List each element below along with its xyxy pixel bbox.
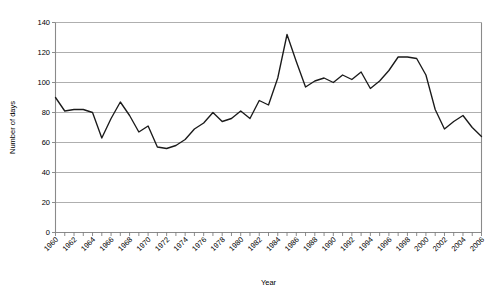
xtick-label-1964: 1964 [79,235,97,253]
ytick-label-120: 120 [37,48,50,57]
ytick-label-20: 20 [42,198,50,207]
xtick-label-1986: 1986 [283,235,301,253]
ytick-label-140: 140 [37,18,50,27]
xtick-label-2002: 2002 [431,235,449,253]
xtick-label-1998: 1998 [394,235,412,253]
xtick-label-1972: 1972 [153,235,171,253]
xtick-label-1980: 1980 [227,235,245,253]
x-axis-title: Year [261,278,277,287]
xtick-label-1990: 1990 [320,235,338,253]
xtick-label-1962: 1962 [60,235,78,253]
xtick-label-1988: 1988 [301,235,319,253]
xtick-label-2004: 2004 [449,235,467,253]
ytick-label-80: 80 [42,108,50,117]
xtick-label-1970: 1970 [135,235,153,253]
xtick-label-1976: 1976 [190,235,208,253]
chart-page: 0204060801001201401960196219641966196819… [0,0,495,291]
ytick-label-0: 0 [46,228,50,237]
xtick-label-1974: 1974 [172,235,190,253]
xtick-label-1960: 1960 [42,235,60,253]
xtick-label-1984: 1984 [264,235,282,253]
xtick-label-1994: 1994 [357,235,375,253]
y-axis-title: Number of days [8,101,17,154]
xtick-label-1968: 1968 [116,235,134,253]
series-line-0 [56,35,482,149]
ytick-label-100: 100 [37,78,50,87]
xtick-label-1982: 1982 [246,235,264,253]
xtick-label-1966: 1966 [98,235,116,253]
xtick-label-2006: 2006 [468,235,486,253]
xtick-label-2000: 2000 [412,235,430,253]
xtick-label-1978: 1978 [209,235,227,253]
ytick-label-60: 60 [42,138,50,147]
ytick-label-40: 40 [42,168,50,177]
line-chart: 0204060801001201401960196219641966196819… [0,0,495,291]
xtick-label-1992: 1992 [338,235,356,253]
xtick-label-1996: 1996 [375,235,393,253]
